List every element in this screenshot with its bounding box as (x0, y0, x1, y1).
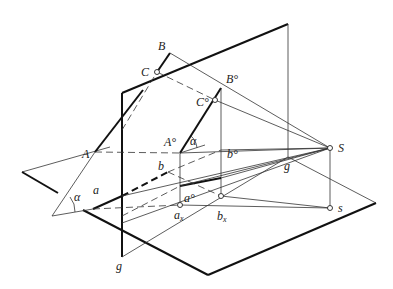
label-a0: a° (184, 191, 195, 205)
label-C: C (141, 65, 150, 79)
label-S: S (338, 141, 344, 155)
point-S (328, 146, 333, 151)
line-ab-visible (93, 196, 122, 209)
label-alpha-lower: α (74, 190, 81, 204)
line-AB-hidden (122, 72, 157, 130)
line-AB-visible (95, 90, 143, 152)
proj-C-to-S (215, 100, 330, 148)
point-s (328, 206, 333, 211)
proj-a0 (122, 186, 180, 216)
point-bx (219, 194, 224, 199)
label-A0: A° (163, 135, 176, 149)
line-CB (157, 53, 170, 72)
label-alpha-upper: α (190, 134, 197, 148)
line-ab-hidden (122, 172, 168, 196)
picture-plane (122, 24, 288, 257)
label-g-bottom: g (116, 259, 122, 273)
label-a: a (93, 183, 99, 197)
point-C (155, 70, 160, 75)
point-C0 (213, 98, 218, 103)
label-B0: B° (226, 72, 238, 86)
perspective-diagram: B C A B° C° A° α α b° b a a° ax bx S s g… (0, 0, 393, 289)
label-b: b (158, 159, 164, 173)
point-ax (178, 203, 183, 208)
proj-A (95, 152, 180, 153)
label-B: B (158, 39, 166, 53)
label-A: A (81, 147, 90, 161)
label-b0: b° (227, 147, 238, 161)
label-g-right: g (284, 159, 290, 173)
label-bx: bx (217, 209, 227, 224)
label-ax: ax (174, 208, 184, 223)
label-C0: C° (196, 95, 209, 109)
label-s: s (338, 201, 343, 215)
